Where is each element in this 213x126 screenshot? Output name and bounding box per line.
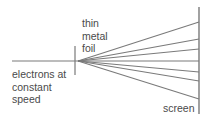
screen-label: screen	[163, 102, 195, 115]
scattered-electron-path	[78, 61, 199, 81]
electrons-label: electrons at constant speed	[12, 68, 66, 106]
foil-label: thin metal foil	[82, 17, 108, 55]
electron-diffraction-diagram: thin metal foil electrons at constant sp…	[0, 0, 213, 126]
